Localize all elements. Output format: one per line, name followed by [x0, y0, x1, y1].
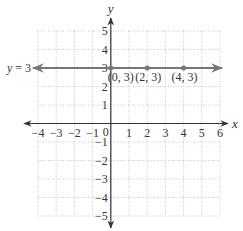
y-tick-label: 5	[102, 24, 108, 38]
x-tick-label: −3	[50, 126, 63, 140]
x-axis-label: x	[231, 116, 238, 131]
x-tick-label: 4	[181, 126, 187, 140]
x-tick-label: 2	[144, 126, 150, 140]
x-tick-label: 5	[199, 126, 205, 140]
y-tick-label: 4	[102, 43, 108, 57]
y-tick-label: −1	[95, 135, 108, 149]
point-label: (2, 3)	[135, 70, 161, 84]
point-label: (4, 3)	[172, 70, 198, 84]
y-tick-label: −3	[95, 172, 108, 186]
point-label: (0, 3)	[108, 70, 134, 84]
equation-label: y = 3	[6, 61, 31, 75]
y-tick-label: 1	[102, 98, 108, 112]
x-tick-label: −4	[32, 126, 45, 140]
y-tick-label: −2	[95, 154, 108, 168]
x-tick-label: 6	[217, 126, 223, 140]
x-tick-label: 3	[162, 126, 168, 140]
y-tick-label: −5	[95, 209, 108, 223]
x-tick-label: 1	[126, 126, 132, 140]
y-axis-label: y	[106, 1, 114, 16]
coordinate-plane: x y 0 −4−3−2−112345654321−1−2−3−4−5 y = …	[0, 0, 243, 231]
y-tick-label: −4	[95, 191, 108, 205]
x-tick-label: −2	[68, 126, 81, 140]
